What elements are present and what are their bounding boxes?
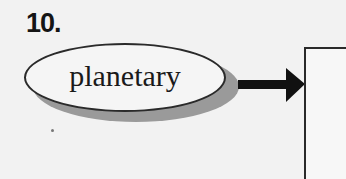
speck-mark xyxy=(51,129,54,132)
item-number: 10. xyxy=(26,10,61,37)
right-arrow-icon xyxy=(236,64,306,104)
answer-box xyxy=(304,47,346,179)
term-oval: planetary xyxy=(24,43,226,112)
term-label: planetary xyxy=(69,59,181,93)
